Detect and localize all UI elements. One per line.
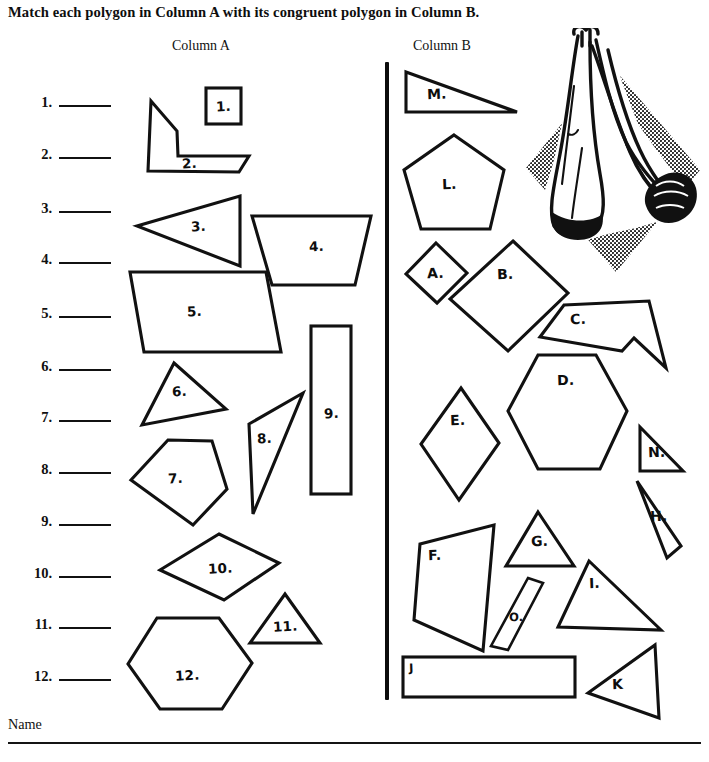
- shape-label-1: 1.: [216, 98, 232, 115]
- answer-row-9[interactable]: 9.: [22, 511, 122, 533]
- person-stretching-illustration: [512, 28, 702, 300]
- answer-blank[interactable]: [59, 356, 111, 371]
- answer-row-6[interactable]: 6.: [22, 356, 122, 378]
- shape-label-f: F.: [428, 547, 442, 563]
- answer-row-2[interactable]: 2.: [22, 144, 122, 166]
- shape-j-rectangle: [403, 657, 575, 697]
- shape-i-triangle: [558, 561, 661, 630]
- shape-e-rhombus: [421, 388, 499, 500]
- answer-blank[interactable]: [59, 144, 111, 159]
- answer-number: 8.: [22, 461, 52, 478]
- shape-label-j: J: [409, 661, 414, 675]
- column-a-header: Column A: [172, 38, 230, 54]
- shape-3-triangle: [137, 196, 240, 266]
- shape-5-parallelogram: [130, 272, 281, 352]
- shape-label-c: C.: [570, 311, 587, 328]
- shape-label-9: 9.: [324, 405, 340, 422]
- answer-row-1[interactable]: 1.: [22, 92, 122, 114]
- answer-number: 5.: [22, 305, 52, 322]
- shape-label-m: M.: [427, 86, 447, 103]
- answer-number: 2.: [22, 146, 52, 163]
- shape-label-g: G.: [531, 533, 549, 550]
- answer-number: 9.: [22, 513, 52, 530]
- shape-label-3: 3.: [191, 218, 207, 235]
- shape-2-l-hexagon: [148, 101, 249, 172]
- shape-label-7: 7.: [168, 470, 184, 487]
- shape-label-l: L.: [442, 176, 457, 193]
- shape-label-o: O.: [509, 610, 524, 624]
- name-label: Name: [8, 716, 42, 733]
- shape-label-6: 6.: [172, 383, 188, 400]
- answer-number: 4.: [22, 251, 52, 268]
- answer-row-12[interactable]: 12.: [22, 666, 122, 688]
- answer-blank[interactable]: [59, 303, 111, 318]
- answer-blank[interactable]: [59, 249, 111, 264]
- answer-blank[interactable]: [59, 407, 111, 422]
- shape-12-hexagon: [128, 618, 252, 709]
- shape-label-10: 10.: [208, 559, 233, 576]
- shape-label-5: 5.: [187, 303, 203, 320]
- shape-label-i: I.: [589, 575, 600, 591]
- answer-blank[interactable]: [59, 198, 111, 213]
- answer-row-5[interactable]: 5.: [22, 303, 122, 325]
- name-line[interactable]: [8, 742, 701, 744]
- answer-blank[interactable]: [59, 92, 111, 107]
- answer-blank[interactable]: [59, 666, 111, 681]
- answer-number: 6.: [22, 358, 52, 375]
- answer-number: 1.: [22, 94, 52, 111]
- shape-label-12: 12.: [175, 666, 200, 683]
- shape-label-k: K: [612, 676, 624, 692]
- shape-label-n: N.: [648, 444, 666, 461]
- answer-blank[interactable]: [59, 459, 111, 474]
- answer-row-7[interactable]: 7.: [22, 407, 122, 429]
- shape-label-4: 4.: [309, 238, 325, 255]
- instruction-text: Match each polygon in Column A with its …: [8, 4, 698, 21]
- answer-number: 3.: [22, 200, 52, 217]
- answer-number: 7.: [22, 409, 52, 426]
- answer-row-11[interactable]: 11.: [22, 614, 122, 636]
- shape-f-quadrilateral: [414, 525, 494, 651]
- answer-row-10[interactable]: 10.: [22, 563, 122, 585]
- shape-label-a: A.: [427, 265, 444, 282]
- shape-label-11: 11.: [273, 617, 298, 634]
- shape-label-d: D.: [557, 372, 575, 389]
- answer-number: 12.: [22, 668, 52, 685]
- shape-8-thin-triangle: [249, 393, 303, 514]
- worksheet-page: Match each polygon in Column A with its …: [0, 0, 709, 762]
- shape-label-e: E.: [450, 412, 466, 429]
- answer-row-8[interactable]: 8.: [22, 459, 122, 481]
- shape-label-2: 2.: [182, 155, 198, 172]
- shape-m-right-triangle: [406, 72, 517, 112]
- shape-c-l-hexagon: [540, 301, 666, 368]
- answer-blank[interactable]: [59, 614, 111, 629]
- answer-row-4[interactable]: 4.: [22, 249, 122, 271]
- column-divider: [385, 62, 389, 700]
- answer-row-3[interactable]: 3.: [22, 198, 122, 220]
- answer-blank[interactable]: [59, 563, 111, 578]
- shape-k-triangle: [588, 645, 659, 718]
- shape-label-h: H.: [650, 508, 668, 525]
- answer-blank[interactable]: [59, 511, 111, 526]
- answer-number: 11.: [22, 616, 52, 633]
- shape-label-8: 8.: [257, 430, 273, 447]
- column-b-header: Column B: [413, 38, 471, 54]
- answer-number: 10.: [22, 565, 52, 582]
